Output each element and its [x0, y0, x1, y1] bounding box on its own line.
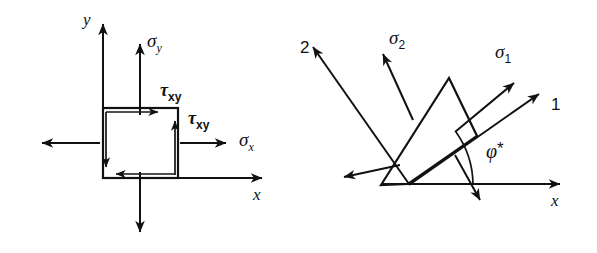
principal-axis-1-arrow [409, 94, 539, 185]
right-principal-element-group: σ1 σ2 1 2 φ* x [300, 27, 560, 210]
principal-axis-2-label: 2 [300, 38, 309, 57]
left-axes [103, 24, 262, 178]
figure-root: σy τxy τxy σx y x [0, 0, 597, 253]
sigma-2-label: σ2 [389, 27, 405, 52]
sigma-y-label: σy [147, 30, 162, 55]
sigma-x-label: σx [239, 129, 254, 154]
x-axis-label: x [252, 185, 261, 204]
sigma-1-arrow-inward [344, 165, 400, 177]
sigma-1-label: σ1 [495, 41, 511, 66]
tau-xy-right-label: τxy [188, 108, 210, 132]
sigma-2-arrow-outward [383, 54, 413, 120]
principal-x-axis-label: x [550, 191, 559, 210]
tau-xy-top-label: τxy [160, 80, 182, 104]
stress-diagram-canvas: σy τxy τxy σx y x [0, 0, 597, 253]
y-axis-label: y [81, 10, 91, 29]
sigma-2-arrow-inward [455, 155, 480, 200]
stress-element-square [103, 108, 178, 178]
phi-star-label: φ* [486, 139, 504, 163]
left-stress-element-group: σy τxy τxy σx y x [42, 10, 262, 232]
principal-axis-1-label: 1 [551, 95, 560, 114]
